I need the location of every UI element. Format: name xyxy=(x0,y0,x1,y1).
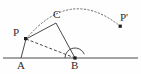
label-b: B xyxy=(71,60,78,71)
segment-p-c xyxy=(26,23,56,39)
rotation-arc-dotted xyxy=(26,9,120,39)
vertex-dot-p-prime xyxy=(119,25,122,28)
label-a: A xyxy=(17,60,25,71)
segment-p-a xyxy=(21,39,26,58)
label-p-prime: P' xyxy=(120,12,128,23)
label-p: P xyxy=(13,27,19,38)
geometry-figure: P C P' A B xyxy=(0,0,141,74)
vertex-dot-p xyxy=(24,37,27,40)
segment-c-b xyxy=(56,23,75,58)
label-c: C xyxy=(53,9,60,20)
segment-p-b-dashed xyxy=(26,39,75,58)
